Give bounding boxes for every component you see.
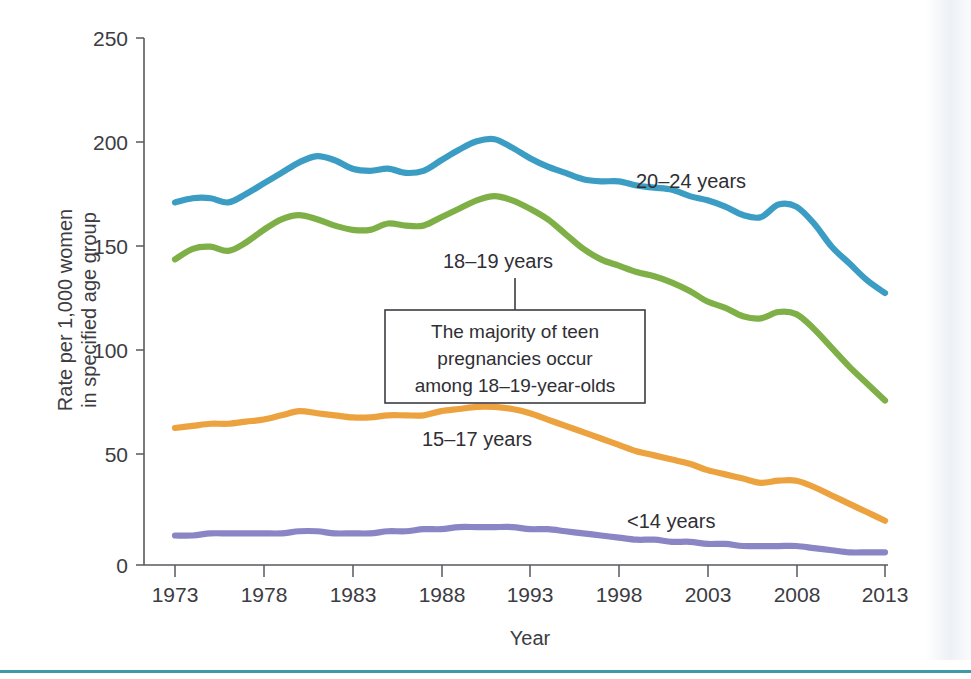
series-label-20-24: 20–24 years <box>636 170 746 192</box>
y-axis-title: Rate per 1,000 women in specified age gr… <box>54 209 100 411</box>
x-tick-label-2003: 2003 <box>685 583 732 606</box>
x-tick-label-1983: 1983 <box>330 583 377 606</box>
series-label-18-19: 18–19 years <box>443 250 553 272</box>
series-label-under-14: <14 years <box>627 510 715 532</box>
chart-canvas: 250 200 150 100 50 0 1973 1978 1 <box>0 0 971 660</box>
series-label-15-17: 15–17 years <box>422 428 532 450</box>
axes <box>144 38 888 565</box>
chart-page: 250 200 150 100 50 0 1973 1978 1 <box>0 0 971 679</box>
x-tick-label-1993: 1993 <box>507 583 554 606</box>
x-tick-label-2013: 2013 <box>862 583 909 606</box>
x-tick-label-2008: 2008 <box>774 583 821 606</box>
x-tick-label-1973: 1973 <box>152 583 199 606</box>
x-tick-label-1988: 1988 <box>419 583 466 606</box>
y-tick-label-50: 50 <box>105 443 128 466</box>
y-tick-label-200: 200 <box>93 131 128 154</box>
x-tick-label-1978: 1978 <box>241 583 288 606</box>
x-tick-label-1998: 1998 <box>596 583 643 606</box>
y-axis-title-line1: Rate per 1,000 women <box>54 209 76 411</box>
callout-line-2: pregnancies occur <box>437 348 593 369</box>
x-axis-title: Year <box>510 627 551 649</box>
y-axis-title-line2: in specified age group <box>78 212 100 408</box>
series-line-under-14 <box>175 527 885 553</box>
x-tick-group: 1973 1978 1983 1988 1993 1998 2003 2008 … <box>152 565 909 606</box>
series-line-15-17 <box>175 407 885 521</box>
bottom-divider-rule <box>0 670 971 673</box>
y-tick-label-0: 0 <box>116 554 128 577</box>
callout-line-3: among 18–19-year-olds <box>415 375 616 396</box>
callout-line-1: The majority of teen <box>431 321 599 342</box>
callout-annotation: The majority of teen pregnancies occur a… <box>385 278 645 403</box>
line-chart: 250 200 150 100 50 0 1973 1978 1 <box>0 0 971 660</box>
y-tick-group: 250 200 150 100 50 0 <box>93 27 144 577</box>
y-tick-label-250: 250 <box>93 27 128 50</box>
